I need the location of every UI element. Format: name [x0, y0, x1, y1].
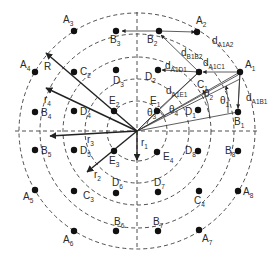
annotation-labels: A1A2A3A4A5A6A7A8B1B2B3B4B5B6B7B8C1C2C3C4…	[20, 14, 268, 247]
label-B7: B7	[153, 216, 164, 229]
point-A5	[32, 187, 38, 193]
label-B4: B4	[41, 107, 52, 120]
point-B8	[235, 148, 241, 154]
label-A7: A7	[202, 233, 213, 246]
point-B1	[235, 109, 241, 115]
point-C4	[196, 188, 202, 194]
point-E3	[111, 148, 117, 154]
label-A4: A4	[20, 59, 31, 72]
point-D7	[155, 189, 161, 195]
point-C1	[196, 69, 202, 75]
label-D8: D8	[185, 145, 196, 158]
label-A1: A1	[245, 59, 256, 72]
label-E2: E2	[109, 95, 120, 108]
distance-label-A1A2: dA1A2	[212, 35, 234, 48]
point-B6	[113, 228, 119, 234]
radius-r4-arrow	[46, 88, 137, 131]
point-A6	[71, 228, 77, 234]
label-B2: B2	[147, 34, 158, 47]
point-D4	[71, 108, 77, 114]
label-B1: B1	[234, 116, 245, 129]
theta1-arc	[226, 86, 228, 113]
angle-label-theta2: θ2	[204, 88, 214, 101]
distance-label-A1D1: dA1D1	[165, 60, 187, 73]
point-D6	[113, 190, 119, 196]
distance-label-A1E1: dA1E1	[166, 85, 188, 98]
radius-label-r4: r4	[44, 94, 51, 107]
label-A6: A6	[63, 234, 74, 247]
point-D3	[113, 67, 119, 73]
label-C3: C3	[83, 190, 94, 203]
label-C2: C2	[80, 66, 91, 79]
point-E4	[154, 149, 160, 155]
point-C2	[71, 69, 77, 75]
label-D7: D7	[154, 177, 165, 190]
point-A4	[32, 69, 38, 75]
point-A1	[237, 69, 243, 75]
line-B2-A2	[159, 31, 195, 32]
label-B5: B5	[41, 145, 52, 158]
label-B8: B8	[225, 145, 236, 158]
point-B4	[32, 109, 38, 115]
point-B2	[156, 28, 162, 34]
point-A2	[194, 29, 200, 35]
point-D5	[71, 147, 77, 153]
label-D3: D3	[113, 75, 124, 88]
label-B3: B3	[110, 34, 121, 47]
radius-label-r1: r1	[141, 137, 148, 150]
label-C4: C4	[194, 195, 205, 208]
radius-label-R: R	[44, 61, 51, 72]
ring-layout-diagram: A1A2A3A4A5A6A7A8B1B2B3B4B5B6B7B8C1C2C3C4…	[0, 0, 277, 262]
radius-label-r2: r2	[94, 169, 101, 182]
label-A2: A2	[196, 15, 207, 28]
label-A5: A5	[23, 191, 34, 204]
label-E3: E3	[109, 155, 120, 168]
radius-arrows	[46, 53, 137, 172]
point-A8	[235, 188, 241, 194]
label-A8: A8	[243, 186, 254, 199]
radius-R-arrow	[46, 53, 137, 131]
label-B6: B6	[114, 216, 125, 229]
angle-label-theta4: θ4	[169, 104, 179, 117]
point-D2	[155, 67, 161, 73]
radius-label-r3: r3	[87, 134, 94, 147]
distance-label-A1B1: dA1B1	[246, 92, 268, 105]
distance-label-A1C1: dA1C1	[203, 57, 225, 70]
point-E2	[111, 108, 117, 114]
label-E4: E4	[163, 151, 174, 164]
label-D6: D6	[112, 177, 123, 190]
label-D2: D2	[145, 71, 156, 84]
label-A3: A3	[63, 14, 74, 27]
point-C3	[71, 188, 77, 194]
line-A1-B1-vert	[238, 72, 240, 110]
point-A3	[71, 28, 77, 34]
point-B5	[32, 147, 38, 153]
